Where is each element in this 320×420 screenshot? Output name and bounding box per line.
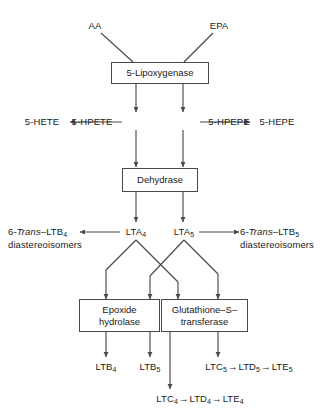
glutathione-transferase-line1: Glutathione–S– — [172, 304, 238, 316]
enzyme-glutathione-s-transferase: Glutathione–S– transferase — [161, 299, 248, 332]
ltc5-base: LTC — [205, 361, 223, 372]
lte5-base: LTE — [272, 361, 289, 372]
ltd4-base: LTD — [189, 393, 207, 404]
pathway-diagram: AA EPA 5-Lipoxygenase 5-HETE 5-HPETE 5-H… — [0, 0, 320, 420]
lta5-subscript: 5 — [190, 231, 194, 238]
substrate-epa: EPA — [210, 20, 229, 32]
product-trans-ltb5-diastereoisomers: 6-Trans–LTB5 diastereoisomers — [240, 226, 314, 250]
chain-arrow-icon: → — [227, 361, 239, 373]
trans-ltb4-prefix: 6- — [8, 226, 17, 237]
edge-lta4-to-epoxide-outer — [106, 240, 136, 270]
trans-ltb4-suffix: –LTB — [41, 226, 63, 237]
glutathione-transferase-line2: transferase — [172, 316, 238, 328]
trans-ltb5-prefix: 6- — [240, 226, 249, 237]
trans-ltb5-suffix: –LTB — [273, 226, 295, 237]
intermediate-lta4: LTA4 — [126, 226, 146, 239]
ltd4: LTD4 — [189, 393, 211, 404]
ltc4: LTC4 — [156, 393, 178, 404]
lta4-subscript: 4 — [142, 231, 146, 238]
trans-ltb4-italic: Trans — [17, 226, 41, 237]
lte5-subscript: 5 — [289, 366, 293, 373]
edge-lta5-to-gst-outer — [184, 240, 218, 274]
trans-ltb5-line2: diastereoisomers — [240, 239, 314, 251]
chain-arrow-icon: → — [211, 393, 223, 405]
edge-aa-to-lipoxygenase — [101, 33, 133, 62]
intermediate-lta5: LTA5 — [174, 226, 194, 239]
lta5-base: LTA — [174, 226, 190, 237]
ltc4-base: LTC — [156, 393, 174, 404]
product-ltb4: LTB4 — [95, 361, 116, 374]
trans-ltb4-subscript: 4 — [63, 231, 67, 238]
lte4-subscript: 4 — [240, 398, 244, 405]
product-ltb5: LTB5 — [139, 361, 160, 374]
product-hepe: 5-HEPE — [260, 116, 295, 128]
epoxide-hydrolase-line2: hydrolase — [99, 316, 140, 328]
ltd5: LTD5 — [238, 361, 260, 372]
lte4-base: LTE — [223, 393, 240, 404]
ltc5: LTC5 — [205, 361, 227, 372]
product-hete: 5-HETE — [25, 116, 59, 128]
intermediate-hpepe: 5-HPEPE — [208, 116, 249, 128]
epoxide-hydrolase-line1: Epoxide — [99, 304, 140, 316]
product-chain-series4: LTC4→LTD4→LTE4 — [156, 393, 243, 406]
product-trans-ltb4-diastereoisomers: 6-Trans–LTB4 diastereoisomers — [8, 226, 82, 250]
chain-arrow-icon: → — [178, 393, 190, 405]
lte4: LTE4 — [223, 393, 244, 404]
edge-lta4-to-gst-cross — [136, 240, 178, 282]
enzyme-dehydrase: Dehydrase — [122, 168, 198, 192]
enzyme-dehydrase-label: Dehydrase — [137, 174, 183, 186]
ltb4-base: LTB — [95, 361, 112, 372]
ltb5-subscript: 5 — [157, 366, 161, 373]
ltb5-base: LTB — [139, 361, 156, 372]
lta4-base: LTA — [126, 226, 142, 237]
enzyme-lipoxygenase-label: 5-Lipoxygenase — [126, 67, 193, 79]
trans-ltb5-italic: Trans — [249, 226, 273, 237]
enzyme-epoxide-hydrolase: Epoxide hydrolase — [79, 299, 160, 332]
lte5: LTE5 — [272, 361, 293, 372]
substrate-aa: AA — [89, 20, 102, 32]
product-chain-series5: LTC5→LTD5→LTE5 — [205, 361, 292, 374]
trans-ltb5-subscript: 5 — [295, 231, 299, 238]
trans-ltb4-line2: diastereoisomers — [8, 239, 82, 251]
intermediate-hpete: 5-HPETE — [72, 116, 113, 128]
edge-epa-to-lipoxygenase — [184, 33, 213, 62]
enzyme-lipoxygenase: 5-Lipoxygenase — [111, 62, 209, 84]
chain-arrow-icon: → — [260, 361, 272, 373]
ltd5-base: LTD — [238, 361, 256, 372]
ltb4-subscript: 4 — [113, 366, 117, 373]
